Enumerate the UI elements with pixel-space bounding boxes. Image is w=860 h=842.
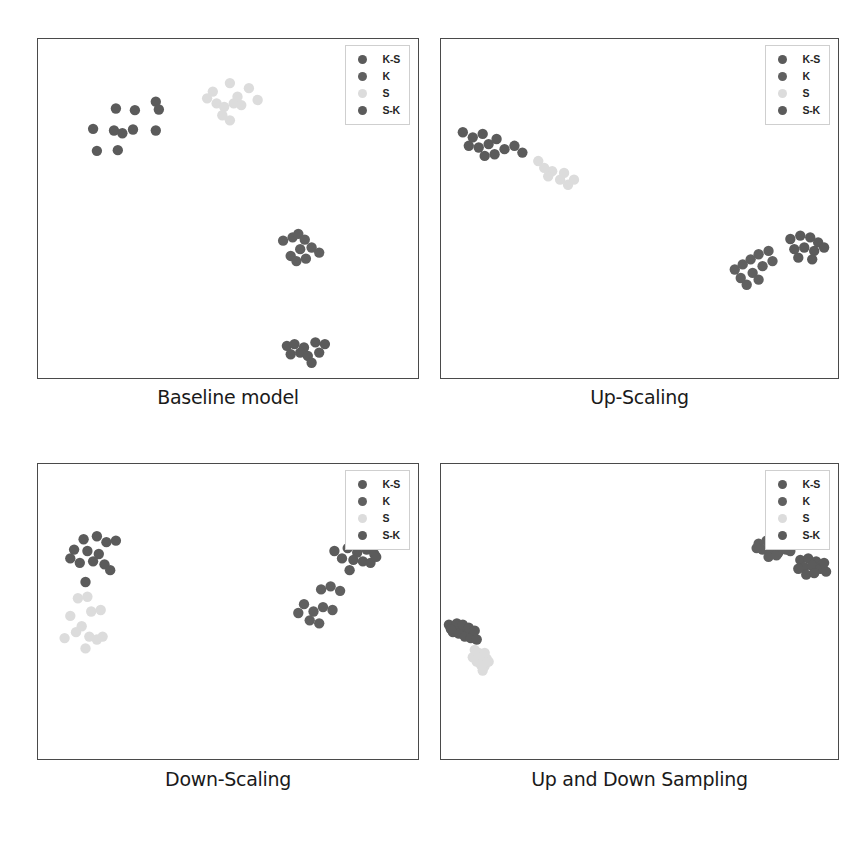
scatter-panel-3: K-SKSS-KUp and Down Sampling (440, 463, 839, 798)
data-point (344, 565, 354, 575)
legend-item-S[interactable]: S (773, 510, 820, 527)
legend-item-K[interactable]: K (353, 68, 400, 85)
data-point (329, 546, 339, 556)
data-point (314, 347, 324, 357)
data-point (82, 546, 92, 556)
data-point (78, 534, 88, 544)
data-point (232, 91, 242, 101)
data-point (819, 242, 829, 252)
series-S (59, 592, 107, 654)
data-point (128, 124, 138, 134)
series-S (468, 645, 494, 676)
legend: K-SKSS-K (765, 470, 830, 550)
series-K (730, 246, 778, 290)
legend-item-SK[interactable]: S-K (773, 527, 820, 544)
plot-area: K-SKSS-K (37, 38, 419, 379)
legend-item-KS[interactable]: K-S (773, 51, 820, 68)
data-point (244, 83, 254, 93)
data-point (314, 247, 324, 257)
legend-label: S-K (383, 530, 400, 541)
data-point (348, 555, 358, 565)
data-point (278, 236, 288, 246)
data-point (464, 141, 474, 151)
legend-marker-icon (358, 55, 367, 64)
data-point (111, 536, 121, 546)
legend-marker-icon (778, 497, 787, 506)
data-point (793, 564, 803, 574)
data-point (763, 246, 773, 256)
data-point (785, 234, 795, 244)
series-KS (88, 97, 164, 156)
data-point (308, 606, 318, 616)
legend-item-K[interactable]: K (773, 68, 820, 85)
data-point (751, 543, 761, 553)
series-K (293, 581, 345, 628)
legend-marker-icon (358, 497, 367, 506)
data-point (69, 544, 79, 554)
legend-marker-icon (358, 514, 367, 523)
data-point (559, 168, 569, 178)
legend-marker-icon (778, 106, 787, 115)
data-point (289, 339, 299, 349)
legend-label: S-K (383, 105, 400, 116)
legend-marker-icon (358, 531, 367, 540)
series-KS (458, 127, 528, 161)
data-point (479, 648, 489, 658)
plot-area: K-SKSS-K (440, 38, 839, 379)
legend-label: K (803, 496, 810, 507)
data-point (65, 553, 75, 563)
legend-label: S-K (803, 105, 820, 116)
data-point (82, 592, 92, 602)
legend-label: S (383, 513, 390, 524)
data-point (478, 129, 488, 139)
series-S (202, 78, 263, 126)
panel-caption-1: Up-Scaling (440, 386, 839, 408)
data-point (337, 553, 347, 563)
data-point (286, 349, 296, 359)
legend-item-S[interactable]: S (773, 85, 820, 102)
data-point (73, 593, 83, 603)
legend-item-SK[interactable]: S-K (353, 102, 400, 119)
legend-item-KS[interactable]: K-S (353, 51, 400, 68)
data-point (474, 142, 484, 152)
legend-item-KS[interactable]: K-S (773, 476, 820, 493)
data-point (202, 93, 212, 103)
legend-label: K-S (383, 479, 400, 490)
data-point (101, 537, 111, 547)
legend-item-SK[interactable]: S-K (773, 102, 820, 119)
legend-item-K[interactable]: K (773, 493, 820, 510)
data-point (75, 558, 85, 568)
series-KS (444, 618, 482, 645)
scatter-panel-2: K-SKSS-KDown-Scaling (37, 463, 419, 798)
legend-label: K-S (803, 54, 820, 65)
data-point (59, 633, 69, 643)
legend-item-S[interactable]: S (353, 510, 400, 527)
panel-caption-0: Baseline model (37, 386, 419, 408)
legend-label: K (383, 496, 390, 507)
data-point (742, 280, 752, 290)
data-point (371, 552, 381, 562)
data-point (767, 256, 777, 266)
data-point (795, 230, 805, 240)
data-point (771, 550, 781, 560)
legend-label: K (383, 71, 390, 82)
legend: K-SKSS-K (345, 45, 410, 125)
legend-item-K[interactable]: K (353, 493, 400, 510)
data-point (489, 149, 499, 159)
data-point (318, 602, 328, 612)
data-point (569, 175, 579, 185)
panel-caption-2: Down-Scaling (37, 768, 419, 790)
data-point (306, 358, 316, 368)
data-point (799, 242, 809, 252)
data-point (65, 611, 75, 621)
data-point (97, 631, 107, 641)
legend-marker-icon (358, 106, 367, 115)
series-KS (65, 531, 121, 587)
legend-item-SK[interactable]: S-K (353, 527, 400, 544)
data-point (821, 567, 831, 577)
legend-item-KS[interactable]: K-S (353, 476, 400, 493)
legend-item-S[interactable]: S (353, 85, 400, 102)
data-point (327, 605, 337, 615)
data-point (225, 78, 235, 88)
data-point (92, 531, 102, 541)
